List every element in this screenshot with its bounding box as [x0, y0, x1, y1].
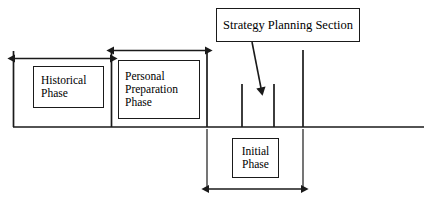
historical-phase-box: Historical Phase: [33, 66, 104, 108]
initial-phase-label-line-1: Initial: [242, 145, 269, 158]
diagram-canvas: Strategy Planning Section Historical Pha…: [0, 0, 426, 204]
personal-preparation-phase-label-line-3: Phase: [125, 96, 152, 109]
personal-preparation-phase-label-line-1: Personal: [125, 70, 165, 83]
strategy-planning-section-label: Strategy Planning Section: [223, 18, 353, 32]
historical-phase-label-line-1: Historical: [41, 74, 86, 87]
strategy-planning-section-box: Strategy Planning Section: [216, 8, 360, 42]
strategy-planning-pointer-arrow: [252, 42, 261, 88]
initial-phase-label-line-2: Phase: [242, 158, 269, 171]
historical-phase-label-line-2: Phase: [41, 87, 68, 100]
personal-preparation-phase-label-line-2: Preparation: [125, 83, 178, 96]
initial-phase-box: Initial Phase: [232, 138, 279, 178]
personal-preparation-phase-box: Personal Preparation Phase: [118, 60, 200, 119]
